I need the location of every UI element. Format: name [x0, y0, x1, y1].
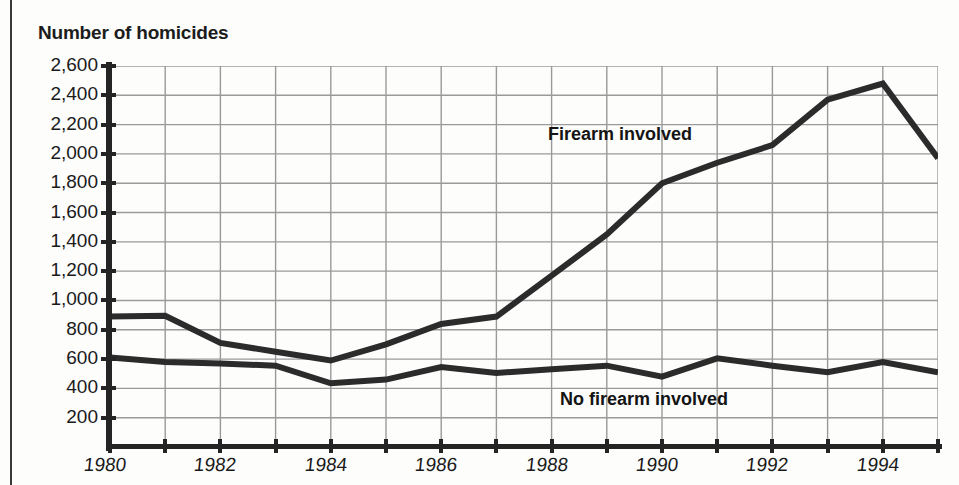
x-tick-label: 1994: [856, 454, 901, 476]
plot-area: [110, 66, 938, 447]
x-tick-label: 1982: [193, 454, 238, 476]
homicides-line-chart: Number of homicides 2004006008001,0001,2…: [0, 0, 959, 485]
x-axis: [106, 444, 942, 449]
series-label-firearm-involved: Firearm involved: [548, 124, 692, 145]
y-tick-label: 1,800: [6, 171, 98, 193]
series-line-1: [110, 358, 938, 384]
x-tick-label: 1980: [83, 454, 128, 476]
series-line-0: [110, 84, 938, 361]
x-tick-label: 1990: [635, 454, 680, 476]
y-tick-label: 2,600: [6, 54, 98, 76]
chart-title: Number of homicides: [38, 22, 228, 44]
y-tick-label: 1,200: [6, 259, 98, 281]
y-tick-label: 2,000: [6, 142, 98, 164]
y-tick-label: 2,200: [6, 113, 98, 135]
y-tick-label: 1,600: [6, 201, 98, 223]
y-tick-label: 200: [6, 406, 98, 428]
y-tick-label: 400: [6, 376, 98, 398]
series-label-no-firearm-involved: No firearm involved: [560, 389, 728, 410]
x-tick-label: 1992: [745, 454, 790, 476]
y-axis: [106, 62, 112, 451]
y-tick-label: 2,400: [6, 83, 98, 105]
x-tick-label: 1984: [304, 454, 349, 476]
y-tick-label: 1,000: [6, 288, 98, 310]
y-tick-label: 800: [6, 318, 98, 340]
y-tick-label: 600: [6, 347, 98, 369]
y-tick-label: 1,400: [6, 230, 98, 252]
x-tick-label: 1986: [414, 454, 459, 476]
x-tick-label: 1988: [524, 454, 569, 476]
series-lines: [110, 66, 938, 447]
